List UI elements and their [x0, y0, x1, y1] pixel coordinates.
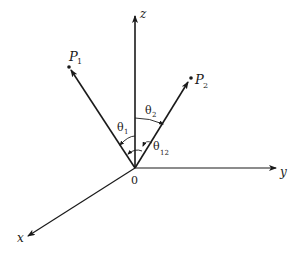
- theta2-arc: [135, 118, 163, 124]
- origin-label: 0: [131, 174, 138, 187]
- x-axis-label: x: [17, 231, 24, 245]
- y-axis-label: y: [279, 165, 287, 179]
- svg-text:1: 1: [77, 57, 82, 66]
- theta1-arc: [120, 136, 135, 145]
- point-p1: [67, 65, 71, 69]
- point-p2: [189, 76, 193, 80]
- svg-text:θ: θ: [117, 121, 124, 134]
- svg-text:θ: θ: [145, 104, 152, 117]
- svg-text:2: 2: [203, 81, 208, 90]
- svg-text:1: 1: [124, 128, 128, 136]
- p1-label: P 1: [68, 49, 82, 66]
- coordinate-diagram: z y x 0 P 1 P 2 θ 1 θ 2 θ 12: [0, 0, 302, 255]
- svg-text:2: 2: [152, 111, 156, 119]
- svg-text:12: 12: [160, 149, 169, 157]
- p2-label: P 2: [194, 72, 208, 90]
- vector-op1: [71, 70, 135, 168]
- theta12-label: θ 12: [153, 140, 169, 157]
- z-axis-label: z: [139, 7, 147, 21]
- x-axis: [28, 168, 135, 236]
- svg-text:θ: θ: [153, 140, 160, 153]
- theta1-label: θ 1: [117, 121, 128, 136]
- theta2-label: θ 2: [145, 104, 156, 119]
